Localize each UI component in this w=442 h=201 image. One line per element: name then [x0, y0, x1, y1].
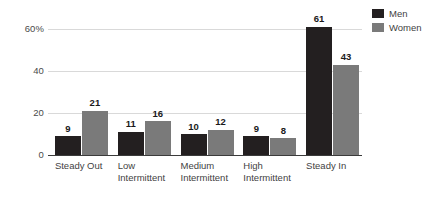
- bar-men: [55, 136, 81, 155]
- bar-group: 6143: [306, 0, 359, 155]
- bar-value-label: 10: [179, 122, 209, 132]
- bar-value-label: 9: [241, 124, 271, 134]
- bar-value-label: 11: [116, 119, 146, 129]
- y-axis-tick-label: 20: [4, 108, 44, 118]
- legend-item[interactable]: Women: [372, 22, 422, 33]
- bar-women: [82, 111, 108, 155]
- x-axis-category-label: Medium Intermittent: [181, 160, 229, 183]
- x-axis-category-label: High Intermittent: [243, 160, 291, 183]
- y-axis-tick-label: 40: [4, 66, 44, 76]
- legend-swatch-icon: [372, 23, 384, 32]
- bar-value-label: 16: [143, 109, 173, 119]
- legend-item[interactable]: Men: [372, 8, 422, 19]
- bar-value-label: 12: [206, 117, 236, 127]
- bar-men: [181, 134, 207, 155]
- bar-women: [208, 130, 234, 155]
- bar-men: [243, 136, 269, 155]
- bar-value-label: 21: [80, 98, 110, 108]
- bar-women: [145, 121, 171, 155]
- bar-group: 1116: [118, 0, 171, 155]
- legend-label: Women: [389, 23, 422, 33]
- bar-men: [118, 132, 144, 155]
- bar-value-label: 61: [304, 14, 334, 24]
- bar-group: 98: [243, 0, 296, 155]
- bar-men: [306, 27, 332, 155]
- y-axis-tick-label: 0: [4, 150, 44, 160]
- bar-chart: 60%40200 92111161012986143 Steady OutLow…: [0, 0, 442, 201]
- legend: MenWomen: [372, 8, 422, 36]
- x-axis-category-label: Steady Out: [55, 160, 103, 172]
- y-axis-tick-label: 60%: [4, 24, 44, 34]
- plot-area: 92111161012986143: [48, 0, 362, 155]
- x-axis-category-label: Low Intermittent: [118, 160, 166, 183]
- bar-women: [270, 138, 296, 155]
- bar-group: 1012: [181, 0, 234, 155]
- bar-group: 921: [55, 0, 108, 155]
- legend-swatch-icon: [372, 9, 384, 18]
- bar-value-label: 8: [268, 126, 298, 136]
- bar-women: [333, 65, 359, 155]
- bar-value-label: 9: [53, 124, 83, 134]
- x-axis-line: [48, 155, 362, 156]
- bar-value-label: 43: [331, 52, 361, 62]
- legend-label: Men: [389, 9, 407, 19]
- x-axis-category-label: Steady In: [306, 160, 346, 172]
